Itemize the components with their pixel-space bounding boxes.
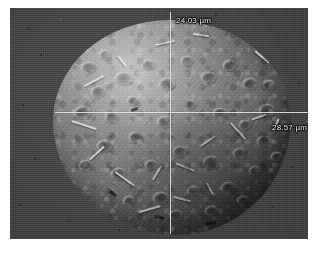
background-speck [291,166,293,168]
background-speck [60,18,62,20]
crosshair-horizontal-line [55,112,308,113]
background-speck [272,206,274,208]
measurement-label-horizontal: 28.57 µm [272,123,307,132]
background-speck [40,54,42,56]
background-speck [22,104,24,106]
background-speck [68,220,70,222]
background-speck [118,229,120,231]
crosshair-vertical-line [170,12,171,234]
background-speck [215,14,217,16]
background-speck [298,82,300,84]
background-speck [28,28,30,30]
sem-micrograph-image: 24.03 µm 28.57 µm [10,8,308,239]
measurement-label-vertical: 24.03 µm [176,16,211,25]
screenshot-root: 24.03 µm 28.57 µm [0,0,316,254]
background-speck [19,204,21,206]
background-speck [34,158,36,160]
